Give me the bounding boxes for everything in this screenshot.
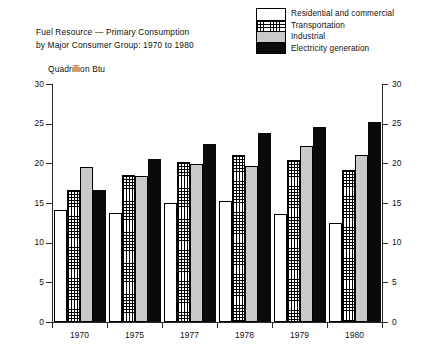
y-tick-label-left-20: 20: [14, 158, 44, 168]
bar-1978-transportation: [232, 155, 245, 322]
bar-1980-transportation: [342, 170, 355, 322]
bar-group-1975: [107, 84, 162, 322]
bar-group-1980: [327, 84, 382, 322]
bar-1979-residential-and-commercial: [274, 214, 287, 322]
y-tick-label-left-30: 30: [14, 79, 44, 89]
y-tick-label-left-25: 25: [14, 118, 44, 128]
y-tick-label-left-15: 15: [14, 198, 44, 208]
x-tick-label-1977: 1977: [162, 330, 218, 340]
legend-swatch-stack: [256, 8, 286, 54]
bar-1979-industrial: [300, 146, 313, 322]
y-tick-label-right-20: 20: [392, 158, 422, 168]
chart-title-line-1: Fuel Resource — Primary Consumption: [36, 26, 251, 39]
bar-groups: [52, 84, 382, 322]
bar-1979-transportation: [287, 160, 300, 322]
bar-1977-residential-and-commercial: [164, 203, 177, 322]
y-tick-right-30: [382, 84, 388, 85]
legend-swatch-electricity-generation: [257, 42, 285, 53]
legend-swatch-residential-and-commercial: [257, 9, 285, 20]
y-tick-right-10: [382, 243, 388, 244]
y-tick-right-15: [382, 203, 388, 204]
x-tick-after-1970: [107, 322, 108, 328]
bar-1970-transportation: [67, 190, 80, 322]
bar-1978-industrial: [245, 166, 258, 322]
x-tick-after-1980: [382, 322, 383, 328]
legend-label-industrial: Industrial: [291, 31, 394, 43]
x-tick-label-1979: 1979: [272, 330, 328, 340]
y-tick-right-5: [382, 282, 388, 283]
bar-1970-electricity-generation: [93, 190, 106, 322]
bar-1977-industrial: [190, 164, 203, 322]
y-tick-label-left-5: 5: [14, 277, 44, 287]
x-tick-label-1970: 1970: [52, 330, 108, 340]
y-tick-label-right-30: 30: [392, 79, 422, 89]
legend-swatch-industrial: [257, 31, 285, 42]
y-tick-label-left-10: 10: [14, 237, 44, 247]
bar-group-1970: [52, 84, 107, 322]
chart-figure: Fuel Resource — Primary Consumption by M…: [0, 0, 432, 351]
y-tick-label-right-25: 25: [392, 118, 422, 128]
y-tick-label-right-15: 15: [392, 198, 422, 208]
bar-1975-transportation: [122, 175, 135, 322]
chart-legend: Residential and commercial Transportatio…: [256, 8, 394, 54]
x-tick-label-1978: 1978: [217, 330, 273, 340]
bar-1978-residential-and-commercial: [219, 201, 232, 322]
bar-1970-residential-and-commercial: [54, 210, 67, 322]
y-tick-label-right-5: 5: [392, 277, 422, 287]
y-tick-label-right-0: 0: [392, 317, 422, 327]
legend-label-stack: Residential and commercial Transportatio…: [291, 8, 394, 54]
x-tick-after-1979: [327, 322, 328, 328]
bar-1980-residential-and-commercial: [329, 223, 342, 322]
bar-group-1978: [217, 84, 272, 322]
x-tick-after-1977: [217, 322, 218, 328]
y-tick-right-25: [382, 124, 388, 125]
x-tick-label-1980: 1980: [327, 330, 383, 340]
bar-1975-electricity-generation: [148, 159, 161, 322]
legend-label-transportation: Transportation: [291, 20, 394, 32]
bar-1979-electricity-generation: [313, 127, 326, 322]
legend-label-electricity-generation: Electricity generation: [291, 43, 394, 55]
plot-area: 051015202530 051015202530 19701975197719…: [52, 84, 382, 322]
bar-group-1977: [162, 84, 217, 322]
bar-1978-electricity-generation: [258, 133, 271, 322]
chart-title-line-2: by Major Consumer Group: 1970 to 1980: [36, 39, 251, 52]
bar-1977-transportation: [177, 162, 190, 322]
bar-1970-industrial: [80, 167, 93, 322]
y-tick-label-right-10: 10: [392, 237, 422, 247]
x-tick-after-1975: [162, 322, 163, 328]
legend-label-residential-and-commercial: Residential and commercial: [291, 8, 394, 20]
bar-1977-electricity-generation: [203, 144, 216, 322]
bar-1975-industrial: [135, 176, 148, 322]
bar-1980-industrial: [355, 155, 368, 322]
y-axis-units-label: Quadrillion Btu: [48, 64, 105, 74]
x-tick-after-1978: [272, 322, 273, 328]
bar-1980-electricity-generation: [368, 122, 381, 322]
y-tick-right-20: [382, 163, 388, 164]
legend-swatch-transportation: [257, 20, 285, 31]
chart-title: Fuel Resource — Primary Consumption by M…: [36, 26, 251, 51]
x-tick-start: [52, 322, 53, 328]
bar-group-1979: [272, 84, 327, 322]
x-tick-label-1975: 1975: [107, 330, 163, 340]
bar-1975-residential-and-commercial: [109, 213, 122, 322]
y-tick-label-left-0: 0: [14, 317, 44, 327]
